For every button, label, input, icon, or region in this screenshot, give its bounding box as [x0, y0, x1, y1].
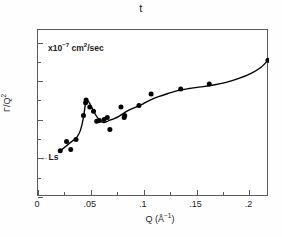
x-tick [197, 190, 198, 195]
x-tick-minor [117, 192, 118, 195]
x-tick [249, 190, 250, 195]
data-point [107, 127, 112, 132]
x-axis-label: Q (Å−1) [0, 214, 282, 224]
data-point [84, 98, 89, 103]
y-tick-minor [38, 100, 41, 101]
data-point [207, 82, 212, 87]
data-point [178, 86, 183, 91]
units-annotation: x10−7 cm2/sec [48, 43, 104, 53]
y-tick [38, 120, 43, 121]
data-point [122, 113, 127, 118]
figure-canvas: t x10−7 cm2/sec ←Ls 02468 0.05.1.15.2 Γ/… [0, 0, 282, 237]
data-point [68, 147, 73, 152]
x-tick [91, 190, 92, 195]
data-point [81, 113, 86, 118]
data-point [91, 109, 96, 114]
figure-title: t [0, 2, 282, 14]
x-tick-label: .2 [233, 199, 263, 209]
x-tick-minor [223, 192, 224, 195]
x-tick [144, 190, 145, 195]
data-point [58, 148, 63, 153]
y-tick [38, 197, 43, 198]
y-tick [38, 43, 43, 44]
y-tick [38, 81, 43, 82]
y-tick-minor [38, 62, 41, 63]
data-point [74, 137, 79, 142]
y-axis-label: Γ/Q2 [2, 94, 12, 112]
x-tick [38, 190, 39, 195]
data-point [105, 115, 110, 120]
x-tick-label: 0 [22, 199, 52, 209]
x-tick-label: .05 [75, 199, 105, 209]
data-point [149, 91, 154, 96]
data-point [87, 105, 92, 110]
y-tick [38, 158, 43, 159]
x-tick-label: .15 [181, 199, 211, 209]
x-tick-minor [64, 192, 65, 195]
x-tick-minor [170, 192, 171, 195]
plot-svg [38, 30, 269, 197]
x-axis-label-text: Q (Å−1) [146, 214, 175, 224]
data-point [136, 103, 141, 108]
x-tick-label: .1 [128, 199, 158, 209]
ls-annotation: ←Ls [40, 152, 58, 162]
data-markers [58, 58, 269, 153]
plot-area: x10−7 cm2/sec ←Ls [37, 29, 268, 196]
data-point [64, 139, 69, 144]
data-point [118, 105, 123, 110]
data-point [97, 118, 102, 123]
y-tick-minor [38, 178, 41, 179]
y-tick-minor [38, 139, 41, 140]
